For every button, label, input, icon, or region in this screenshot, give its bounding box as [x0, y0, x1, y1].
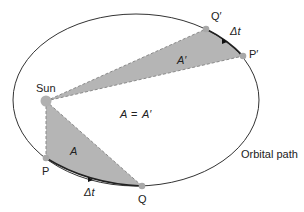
equation-lhs: A [119, 108, 127, 120]
point-q [139, 183, 146, 190]
point-p-prime-label: P′ [249, 48, 258, 60]
point-q-prime-label: Q′ [211, 10, 222, 22]
point-p [43, 155, 50, 162]
area-a-prime-sector [46, 29, 243, 101]
sun-icon [41, 96, 52, 107]
point-q-label: Q [138, 193, 147, 205]
kepler-diagram: Sun P Q P′ Q′ Δt Δt A A′ A = A′ Orbital … [0, 0, 304, 212]
delta-t-lower-label: Δt [83, 186, 95, 198]
delta-t-upper-label: Δt [229, 25, 241, 37]
equation-rhs: A′ [141, 108, 152, 120]
area-a-label: A [69, 145, 77, 157]
point-p-label: P [42, 165, 49, 177]
point-p-prime [240, 53, 247, 60]
equation-operator: = [131, 108, 137, 120]
point-q-prime [203, 26, 210, 33]
area-a-prime-label: A′ [176, 54, 187, 66]
equation: A = A′ [119, 108, 152, 120]
orbital-path-label: Orbital path [241, 148, 298, 160]
sun-label: Sun [36, 82, 56, 94]
